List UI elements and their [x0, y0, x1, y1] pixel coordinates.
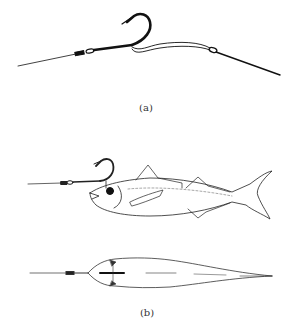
wire-loop-upper [132, 42, 210, 49]
dorsal-fin [136, 165, 182, 188]
lateral-line [128, 188, 232, 196]
hook-shank [73, 181, 100, 182]
panel-b-side-view [28, 159, 272, 219]
hook-shank [94, 45, 132, 50]
panel-b-top-view [30, 258, 272, 288]
eye-lower [110, 281, 116, 286]
swivel [86, 48, 95, 53]
leader-line-left [18, 54, 76, 66]
panel-a-caption: (a) [126, 102, 166, 113]
panel-b-caption: (b) [127, 307, 167, 318]
wire-loop-lower [132, 46, 210, 52]
pectoral-fin [130, 190, 163, 206]
fish-eye [107, 188, 114, 195]
anal-fin [188, 203, 230, 218]
panel-a-hook-rig [18, 14, 280, 75]
fish-gill [114, 186, 121, 208]
leader-line-right [216, 52, 280, 75]
leader-line [28, 183, 62, 184]
crimp-sleeve [66, 272, 74, 275]
dorsal-line-2 [194, 274, 226, 275]
fishing-rig-diagram [0, 0, 293, 329]
crimp-sleeve [75, 51, 85, 56]
swivel [67, 181, 73, 185]
fish-outline-bottom [88, 273, 272, 288]
fish-body [90, 171, 272, 219]
crimp-sleeve [61, 182, 67, 185]
